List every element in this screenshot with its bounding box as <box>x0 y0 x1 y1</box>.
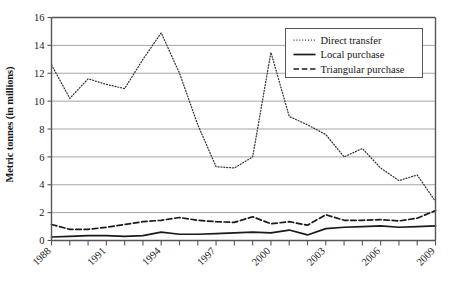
y-tick-label: 2 <box>39 207 44 218</box>
y-tick-label: 8 <box>39 124 44 135</box>
y-tick-label: 6 <box>39 152 44 163</box>
y-axis-ticks: 0246810121416 <box>34 12 52 246</box>
y-tick-label: 4 <box>39 179 45 190</box>
x-tick-label: 2003 <box>305 245 328 268</box>
legend-label: Triangular purchase <box>321 64 405 75</box>
y-tick-label: 16 <box>34 12 45 23</box>
x-tick-label: 1988 <box>30 245 53 268</box>
chart-legend: Direct transferLocal purchaseTriangular … <box>286 29 423 78</box>
x-tick-label: 2000 <box>250 245 273 268</box>
y-tick-label: 12 <box>34 68 45 79</box>
x-tick-label: 2009 <box>414 245 437 268</box>
y-tick-label: 0 <box>39 235 44 246</box>
x-tick-label: 1991 <box>85 245 108 268</box>
x-tick-label: 1997 <box>195 245 218 268</box>
line-chart: 0246810121416 19881991199419972000200320… <box>0 0 454 288</box>
x-axis-ticks: 19881991199419972000200320062009 <box>30 241 437 268</box>
y-tick-label: 10 <box>34 96 45 107</box>
x-tick-label: 2006 <box>359 245 382 268</box>
chart-figure: Metric tonnes (in millions) 024681012141… <box>0 0 454 288</box>
legend-label: Local purchase <box>321 49 385 60</box>
y-tick-label: 14 <box>34 40 45 51</box>
x-tick-label: 1994 <box>140 245 163 268</box>
legend-label: Direct transfer <box>321 35 382 46</box>
